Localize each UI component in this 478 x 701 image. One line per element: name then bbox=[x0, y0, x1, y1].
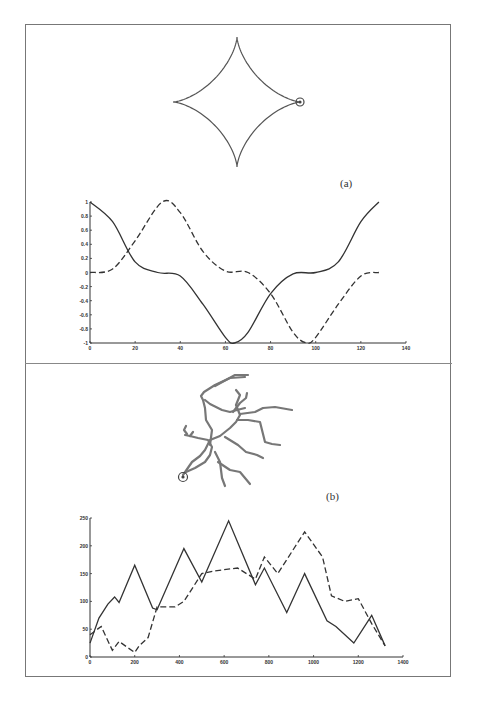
astroid-shape bbox=[173, 37, 304, 167]
y-tick-label: -0.2 bbox=[79, 284, 88, 290]
y-tick-label: -0.6 bbox=[79, 312, 88, 318]
y-tick-label: 150 bbox=[80, 571, 89, 577]
x-tick-label: 80 bbox=[268, 345, 274, 351]
y-tick-label: 0.2 bbox=[81, 255, 88, 261]
series-solid bbox=[90, 202, 379, 343]
x-tick-label: 0 bbox=[89, 659, 92, 665]
x-tick-label: 800 bbox=[265, 659, 274, 665]
panel-a-label: (a) bbox=[340, 177, 353, 190]
y-tick-label: 0 bbox=[85, 654, 88, 660]
x-tick-label: 120 bbox=[357, 345, 366, 351]
y-tick-label: 250 bbox=[80, 515, 89, 521]
x-tick-label: 60 bbox=[223, 345, 229, 351]
x-tick-label: 1200 bbox=[353, 659, 364, 665]
chart-a: 02040608010012014010.80.60.40.20-0.2-0.4… bbox=[79, 199, 410, 351]
x-tick-label: 140 bbox=[402, 345, 411, 351]
y-tick-label: -0.8 bbox=[79, 326, 88, 332]
figure-canvas: (a) 02040608010012014010.80.60.40.20-0.2… bbox=[0, 0, 478, 701]
y-tick-label: 1 bbox=[85, 199, 88, 205]
x-tick-label: 0 bbox=[89, 345, 92, 351]
series-dashed bbox=[90, 200, 379, 343]
y-tick-label: 50 bbox=[82, 626, 88, 632]
y-tick-label: 200 bbox=[80, 543, 89, 549]
y-tick-label: 0.6 bbox=[81, 227, 88, 233]
series-solid bbox=[90, 521, 385, 646]
x-tick-label: 400 bbox=[175, 659, 184, 665]
x-tick-label: 200 bbox=[131, 659, 140, 665]
x-tick-label: 1400 bbox=[397, 659, 408, 665]
x-tick-label: 600 bbox=[220, 659, 229, 665]
x-tick-label: 100 bbox=[312, 345, 321, 351]
branched-contour-shape bbox=[183, 375, 292, 486]
y-tick-label: 0 bbox=[85, 270, 88, 276]
y-tick-label: 0.4 bbox=[81, 241, 88, 247]
panel-b-label: (b) bbox=[326, 490, 339, 503]
y-tick-label: -1 bbox=[84, 340, 89, 346]
x-tick-label: 40 bbox=[178, 345, 184, 351]
series-dashed bbox=[90, 532, 385, 653]
chart-b: 0200400600800100012001400050100150200250 bbox=[80, 515, 409, 665]
x-tick-label: 1000 bbox=[308, 659, 319, 665]
y-tick-label: -0.4 bbox=[79, 298, 88, 304]
x-tick-label: 20 bbox=[132, 345, 138, 351]
y-tick-label: 0.8 bbox=[81, 213, 88, 219]
y-tick-label: 100 bbox=[80, 598, 89, 604]
